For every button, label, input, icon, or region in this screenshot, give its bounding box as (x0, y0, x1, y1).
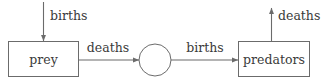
stock-flow-diagram: births prey deaths births predators (0, 0, 323, 82)
flow-prey-deaths: deaths (79, 40, 140, 61)
node-prey-label: prey (29, 52, 58, 67)
node-predators-label: predators (243, 52, 305, 67)
flow-prey-births: births (44, 2, 88, 41)
node-predators: predators (239, 42, 310, 77)
flow-predator-births: births (171, 40, 238, 61)
flow-label-prey-births: births (50, 8, 87, 23)
node-junction (139, 44, 171, 76)
flow-label-predator-births: births (186, 40, 223, 55)
node-junction-circle (139, 44, 171, 76)
flow-label-predator-deaths: deaths (278, 8, 320, 23)
diagram-canvas: births prey deaths births predators (0, 0, 323, 82)
node-prey: prey (9, 42, 79, 77)
flow-predator-deaths: deaths (272, 8, 321, 42)
flow-label-prey-deaths: deaths (87, 40, 129, 55)
